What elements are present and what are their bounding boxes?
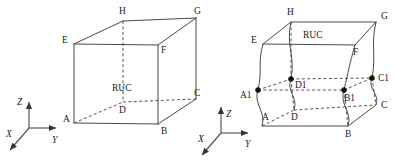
vertex-label-D: D: [291, 112, 298, 122]
node-dot-A1: [256, 88, 261, 93]
vertex-label-B: B: [345, 129, 351, 139]
ruc-label: RUC: [112, 83, 132, 93]
vertex-label-C: C: [194, 88, 200, 98]
node-dot-B1: [342, 88, 347, 93]
vertex-label-F: F: [353, 47, 358, 57]
solid-edge-F-G: [158, 18, 196, 45]
vertex-label-G: G: [194, 6, 201, 16]
vertex-label-B1: B1: [344, 93, 355, 103]
vertex-label-C: C: [381, 100, 387, 110]
solid-edge-H-G: [123, 18, 196, 21]
vertex-label-H: H: [287, 7, 294, 17]
panels-layer: EHGFADCBRUCZYXEHGFA1D1C1B1ADCBRUCZYX: [5, 6, 389, 155]
solid-edge-A-B: [74, 123, 158, 124]
z-axis-arrow: [26, 102, 32, 109]
hidden-edge-D-C: [123, 99, 196, 102]
straight-edge-ruc-cube: EHGFADCBRUCZYX: [5, 6, 201, 150]
hidden-edge-A-D: [74, 102, 123, 123]
vertex-label-H: H: [119, 6, 126, 16]
axes-group: ZYX: [197, 107, 252, 155]
y-axis-label: Y: [245, 139, 252, 149]
wavy-edge-ruc-cube: EHGFA1D1C1B1ADCBRUCZYX: [197, 7, 389, 155]
ruc-figure-canvas: EHGFADCBRUCZYXEHGFA1D1C1B1ADCBRUCZYX: [0, 0, 406, 165]
axes-group: ZYX: [5, 97, 59, 150]
ruc-label: RUC: [303, 30, 323, 40]
z-axis-label: Z: [226, 109, 232, 119]
y-axis-label: Y: [52, 135, 59, 145]
hidden-edge-D-C: [294, 105, 376, 110]
wavy-edge-F-B: [343, 45, 355, 126]
y-axis-arrow: [49, 125, 56, 131]
solid-edge-E-H: [263, 22, 291, 44]
vertex-label-D1: D1: [295, 80, 307, 90]
vertex-label-F: F: [161, 45, 166, 55]
vertex-label-A1: A1: [240, 90, 252, 100]
solid-edge-E-F: [74, 44, 158, 45]
vertex-label-C1: C1: [378, 73, 389, 83]
vertex-label-A: A: [262, 112, 269, 122]
vertex-label-B: B: [161, 126, 167, 136]
node-dot-D1: [289, 77, 294, 82]
solid-edge-B-C: [158, 99, 196, 124]
solid-edge-B-C: [348, 105, 376, 126]
hidden-edge-A1-D1: [258, 79, 291, 90]
wavy-edge-H-D: [289, 22, 295, 110]
figure-root: EHGFADCBRUCZYXEHGFA1D1C1B1ADCBRUCZYX: [0, 0, 406, 165]
z-axis-arrow: [218, 107, 224, 114]
z-axis-label: Z: [17, 97, 23, 107]
vertex-label-E: E: [251, 35, 257, 45]
wavy-edge-G-C: [371, 22, 377, 105]
x-axis-label: X: [5, 129, 13, 139]
hidden-edge-B1-C1: [344, 78, 372, 90]
solid-edge-F-G: [355, 22, 376, 45]
node-dot-C1: [370, 76, 375, 81]
y-axis-arrow: [241, 130, 248, 136]
solid-edge-E-F: [263, 44, 355, 45]
vertex-label-E: E: [62, 35, 68, 45]
x-axis-label: X: [197, 134, 205, 144]
vertex-label-A: A: [63, 114, 70, 124]
vertex-label-D: D: [119, 105, 126, 115]
solid-edge-E-H: [74, 21, 123, 44]
hidden-edge-D1-C1: [291, 78, 372, 79]
vertex-label-G: G: [381, 11, 388, 21]
